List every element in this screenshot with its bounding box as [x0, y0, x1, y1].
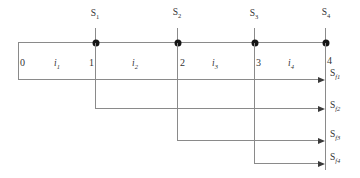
label-i2: i2: [132, 59, 138, 69]
timeline-left-edge-line: [18, 42, 19, 80]
label-time-0: 0: [20, 58, 25, 68]
label-s1: S1: [91, 9, 100, 19]
arrowhead-sf2: [318, 106, 325, 112]
arrow-line-sf1: [18, 79, 319, 80]
label-i3: i3: [212, 59, 218, 69]
drop-line-node1: [95, 43, 96, 109]
label-time-4: 4: [327, 56, 332, 66]
arrow-line-sf4: [254, 163, 319, 164]
label-time-2: 2: [180, 58, 185, 68]
drop-line-node4: [325, 43, 326, 170]
label-s3: S3: [250, 9, 259, 19]
timeline-top-line: [18, 42, 326, 43]
drop-line-node2: [177, 43, 178, 141]
label-sf3: Sf3: [330, 130, 340, 140]
arrow-line-sf3: [177, 140, 319, 141]
compound-interest-timeline-diagram: S1 S2 S3 S4 0 1 2 3 4 i1 i2 i3 i4 Sf1 Sf…: [0, 0, 360, 178]
label-time-1: 1: [89, 58, 94, 68]
label-sf4: Sf4: [330, 153, 340, 163]
arrowhead-sf1: [318, 77, 325, 83]
label-time-3: 3: [256, 58, 261, 68]
arrow-line-sf2: [95, 108, 319, 109]
label-i1: i1: [54, 59, 60, 69]
arrowhead-sf3: [318, 138, 325, 144]
label-sf1: Sf1: [330, 69, 340, 79]
label-sf2: Sf2: [330, 101, 340, 111]
label-s2: S2: [173, 8, 182, 18]
label-s4: S4: [322, 8, 331, 18]
arrowhead-sf4: [318, 161, 325, 167]
drop-line-node3: [254, 43, 255, 164]
label-i4: i4: [288, 59, 294, 69]
